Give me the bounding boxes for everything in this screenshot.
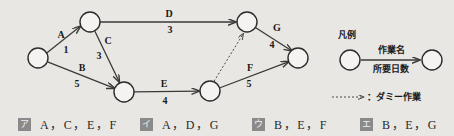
edge-label-F: F xyxy=(247,62,253,73)
edge-label-B: B xyxy=(79,62,86,73)
edge-E xyxy=(134,91,200,92)
answer-option-u[interactable]: ウ B，E，F xyxy=(252,115,328,133)
edge-label-E: E xyxy=(161,78,168,89)
edge-days-D: 3 xyxy=(168,24,173,35)
edge-days-C: 3 xyxy=(97,50,102,61)
edge-label-G: G xyxy=(273,22,281,33)
option-text-u: B，E，F xyxy=(274,115,328,133)
node-n3 xyxy=(114,82,134,102)
legend-node-right xyxy=(422,50,442,70)
node-n4 xyxy=(237,12,257,32)
edge-dummy xyxy=(214,34,243,82)
option-text-i: A，D，G xyxy=(162,115,220,133)
option-text-e: B，E，G xyxy=(382,115,438,133)
edge-label-C: C xyxy=(104,35,111,46)
node-n2 xyxy=(80,12,100,32)
edge-days-G: 4 xyxy=(270,39,275,50)
option-marker-e: エ xyxy=(360,118,373,131)
node-n5 xyxy=(200,81,220,101)
edge-F xyxy=(219,62,289,88)
legend-duration-label: 所要日数 xyxy=(373,63,410,74)
node-n1 xyxy=(28,48,48,68)
answer-options: ア A，C，E，F イ A，D，G ウ B，E，F エ B，E，G xyxy=(0,112,454,136)
legend-task-name-label: 作業名 xyxy=(378,44,405,55)
option-text-a: A，C，E，F xyxy=(40,115,118,133)
edge-days-B: 5 xyxy=(75,78,80,89)
edge-days-E: 4 xyxy=(163,95,168,106)
node-n6 xyxy=(288,48,308,68)
edge-label-D: D xyxy=(165,8,172,19)
legend-dummy-label: ：ダミー作業 xyxy=(367,91,422,102)
answer-option-e[interactable]: エ B，E，G xyxy=(360,115,438,133)
legend-node-left xyxy=(340,50,360,70)
legend-title: 凡例 xyxy=(337,29,356,40)
edge-days-A: 1 xyxy=(64,44,69,55)
figure-page: A 1 B 5 C 3 D 3 E 4 F 5 G 4 凡例 作業名 所要日数 … xyxy=(0,0,454,136)
edge-days-F: 5 xyxy=(247,78,252,89)
option-marker-u: ウ xyxy=(252,118,265,131)
answer-option-i[interactable]: イ A，D，G xyxy=(140,115,220,133)
edge-label-A: A xyxy=(57,29,65,40)
option-marker-a: ア xyxy=(18,118,31,131)
option-marker-i: イ xyxy=(140,118,153,131)
answer-option-a[interactable]: ア A，C，E，F xyxy=(18,115,118,133)
